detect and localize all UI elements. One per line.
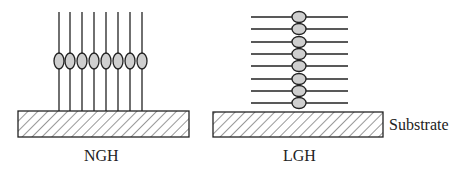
lgh-substrate bbox=[213, 112, 383, 137]
ngh-label: NGH bbox=[84, 147, 119, 165]
ngh-substrate bbox=[18, 111, 189, 137]
ngh-panel bbox=[18, 12, 189, 137]
lgh-label: LGH bbox=[283, 147, 316, 165]
substrate-label: Substrate bbox=[389, 116, 449, 134]
diagram-canvas bbox=[0, 0, 470, 172]
ngh-head-groups bbox=[54, 53, 147, 69]
lgh-panel bbox=[213, 12, 383, 138]
lgh-head-groups bbox=[292, 12, 306, 109]
